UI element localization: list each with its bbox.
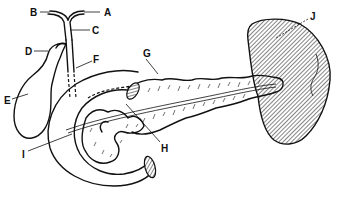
label-d: D xyxy=(25,46,32,57)
label-i: I xyxy=(22,149,25,160)
label-f: F xyxy=(93,54,99,65)
label-b: B xyxy=(30,7,37,18)
vessel-cut-end xyxy=(88,81,142,102)
biliary-ducts xyxy=(48,11,84,98)
label-h: H xyxy=(161,143,168,154)
pancreas-texture xyxy=(90,80,260,157)
duodenum-cut-end xyxy=(142,155,157,179)
spleen xyxy=(248,19,331,144)
pancreas xyxy=(66,75,283,163)
pancreas-anatomy-diagram: A B C D E F G H I J xyxy=(0,0,338,197)
gallbladder xyxy=(14,43,66,138)
label-j: J xyxy=(310,11,316,22)
label-g: G xyxy=(143,48,151,59)
duodenum xyxy=(48,71,158,187)
label-a: A xyxy=(104,7,111,18)
label-e: E xyxy=(4,95,11,106)
label-c: C xyxy=(92,25,99,36)
